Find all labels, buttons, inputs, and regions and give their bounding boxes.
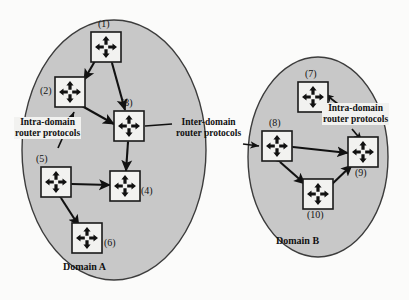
domain-b-caption: Domain B bbox=[276, 236, 319, 246]
intra-domain-a-line1: Intra-domain bbox=[15, 117, 80, 128]
router-label-r9: (9) bbox=[355, 168, 367, 178]
intra-domain-a-annotation: Intra-domain router protocols bbox=[14, 117, 81, 139]
intra-domain-b-annotation: Intra-domain router protocols bbox=[322, 103, 389, 125]
router-node-r5[interactable] bbox=[41, 167, 71, 197]
router-label-r6: (6) bbox=[104, 238, 116, 248]
router-label-r10: (10) bbox=[307, 210, 324, 220]
inter-domain-line2: router protocols bbox=[176, 128, 241, 139]
router-label-r4: (4) bbox=[141, 186, 153, 196]
router-node-r9[interactable] bbox=[348, 137, 378, 167]
intra-domain-b-line1: Intra-domain bbox=[323, 103, 388, 114]
router-label-r3: (3) bbox=[121, 98, 133, 108]
router-node-r2[interactable] bbox=[55, 77, 85, 107]
intra-domain-b-line2: router protocols bbox=[323, 114, 388, 125]
router-node-r6[interactable] bbox=[72, 223, 102, 253]
router-label-r7: (7) bbox=[305, 69, 317, 79]
inter-domain-annotation: Inter-domain router protocols bbox=[175, 117, 242, 139]
router-label-r2: (2) bbox=[40, 86, 52, 96]
router-node-r10[interactable] bbox=[303, 179, 333, 209]
diagram-canvas bbox=[0, 0, 409, 300]
router-label-r8: (8) bbox=[269, 118, 281, 128]
router-node-r4[interactable] bbox=[110, 171, 140, 201]
router-label-r1: (1) bbox=[98, 19, 110, 29]
router-node-r8[interactable] bbox=[262, 131, 292, 161]
router-node-r3[interactable] bbox=[114, 111, 144, 141]
inter-domain-line1: Inter-domain bbox=[176, 117, 241, 128]
link-r5-r4 bbox=[72, 184, 110, 185]
router-label-r5: (5) bbox=[36, 154, 48, 164]
intra-domain-a-line2: router protocols bbox=[15, 128, 80, 139]
router-node-r1[interactable] bbox=[91, 32, 121, 62]
domain-a-caption: Domain A bbox=[63, 262, 106, 272]
network-diagram-figure: (1) (2) (3) (4) (5) (6) (7) (8) (9) (10)… bbox=[0, 0, 409, 300]
